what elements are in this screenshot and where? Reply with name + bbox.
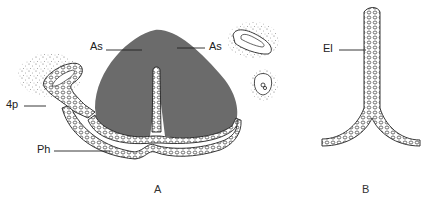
label-fourth-pouch: 4p xyxy=(6,98,18,110)
panel-label-a: A xyxy=(154,183,162,195)
label-epithelium: El xyxy=(323,42,333,54)
panel-a: As As 4p Ph A xyxy=(6,30,241,195)
label-pharynx: Ph xyxy=(37,143,50,155)
label-as-left: As xyxy=(90,40,103,52)
label-as-right: As xyxy=(209,40,222,52)
diagram-figure: As As 4p Ph A El B xyxy=(0,0,423,201)
round-body xyxy=(254,74,271,96)
panel-b: El B xyxy=(322,8,420,196)
panel-label-b: B xyxy=(362,183,369,195)
epithelial-y-structure xyxy=(322,8,420,147)
small-structures xyxy=(227,22,279,101)
central-stalk xyxy=(152,67,161,132)
